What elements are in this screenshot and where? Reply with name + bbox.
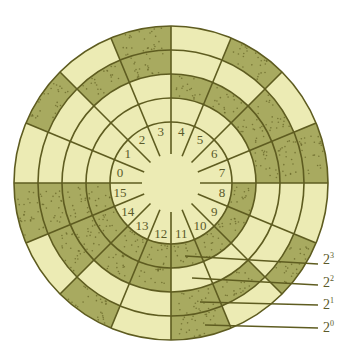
code-disk: 0123456789101112131415 [0,0,345,352]
sector-number-1: 1 [125,146,132,161]
sector-number-10: 10 [193,218,206,233]
base: 2 [323,252,330,267]
sector-number-4: 4 [178,124,185,139]
sector-number-8: 8 [219,185,226,200]
exponent: 1 [330,296,334,305]
sector-number-9: 9 [211,204,218,219]
sector-number-14: 14 [121,204,135,219]
exponent: 2 [330,274,334,283]
base: 2 [323,297,330,312]
sector-number-13: 13 [136,218,149,233]
base: 2 [323,320,330,335]
sector-number-7: 7 [219,165,226,180]
sector-number-0: 0 [117,165,124,180]
exponent: 3 [330,251,334,260]
sector-number-15: 15 [113,185,126,200]
sector-number-2: 2 [139,132,146,147]
bit-label-2pow3: 23 [323,252,334,267]
exponent: 0 [330,319,334,328]
sector-number-12: 12 [154,226,167,241]
sector-number-3: 3 [158,124,165,139]
bit-label-2pow1: 21 [323,297,334,312]
sector-number-5: 5 [197,132,204,147]
base: 2 [323,275,330,290]
sector-number-6: 6 [211,146,218,161]
sector-number-11: 11 [175,226,188,241]
bit-label-2pow0: 20 [323,320,334,335]
bit-label-2pow2: 22 [323,275,334,290]
